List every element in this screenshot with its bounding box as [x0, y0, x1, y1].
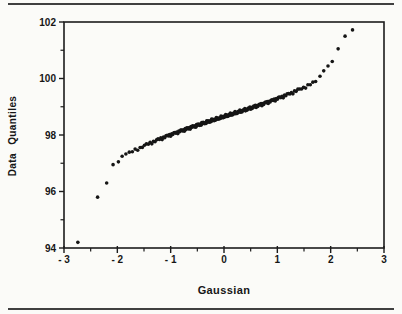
data-point [111, 163, 115, 167]
data-point [336, 47, 340, 51]
data-point [136, 148, 140, 152]
figure-page: - 3- 2- 10123949698100102 Data Quantiles… [0, 0, 402, 314]
data-point [117, 160, 121, 164]
y-tick-label: 100 [39, 73, 56, 84]
data-point [105, 181, 109, 185]
data-point [76, 241, 80, 245]
y-tick-label: 96 [45, 186, 57, 197]
qq-plot-chart: - 3- 2- 10123949698100102 [0, 0, 402, 314]
y-tick-label: 98 [45, 130, 57, 141]
data-point [326, 64, 330, 68]
x-tick-label: - 1 [165, 254, 177, 265]
x-axis-label: Gaussian [64, 284, 384, 296]
data-point [120, 154, 124, 158]
data-point [314, 80, 318, 84]
data-point [96, 195, 100, 199]
data-point [124, 152, 128, 156]
y-tick-label: 102 [39, 17, 56, 28]
data-point [343, 34, 347, 38]
data-point [127, 150, 131, 154]
x-tick-label: - 3 [58, 254, 70, 265]
y-tick-label: 94 [45, 243, 57, 254]
data-point [351, 28, 355, 32]
data-point [322, 69, 326, 73]
x-tick-label: 3 [381, 254, 387, 265]
data-point [131, 150, 135, 154]
x-tick-label: 0 [221, 254, 227, 265]
data-point [304, 86, 308, 90]
bottom-rule [8, 308, 394, 310]
data-point [330, 60, 334, 64]
x-tick-label: - 2 [111, 254, 123, 265]
data-point [318, 74, 322, 78]
x-tick-label: 2 [328, 254, 334, 265]
plot-frame [64, 22, 384, 248]
y-axis-label: Data Quantiles [7, 76, 21, 196]
data-point [308, 83, 312, 87]
x-tick-label: 1 [275, 254, 281, 265]
